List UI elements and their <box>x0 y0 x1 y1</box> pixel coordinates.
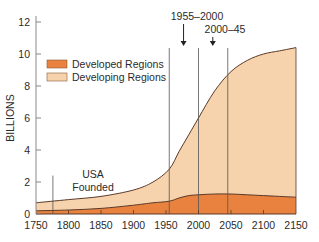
y-axis-label: BILLIONS <box>4 94 16 141</box>
y-tick-label-10: 10 <box>18 48 30 60</box>
annotation-1955-2000: 1955–2000 <box>171 10 224 22</box>
x-tick-label-1750: 1750 <box>24 219 48 231</box>
x-tick-label-1950: 1950 <box>154 219 178 231</box>
annotation-2000-45: 2000–45 <box>205 23 246 35</box>
population-chart: 0246810121750180018501900195020002050210… <box>0 0 319 242</box>
x-tick-label-2100: 2100 <box>252 219 276 231</box>
x-tick-label-1800: 1800 <box>57 219 81 231</box>
y-tick-label-12: 12 <box>18 16 30 28</box>
legend-swatch-developed <box>47 60 67 68</box>
y-tick-label-2: 2 <box>24 176 30 188</box>
arrow-head-1 <box>210 41 216 46</box>
legend-label-developing: Developing Regions <box>72 71 166 83</box>
y-tick-label-4: 4 <box>24 144 30 156</box>
arrow-head-0 <box>181 41 187 46</box>
x-tick-label-2050: 2050 <box>219 219 243 231</box>
legend-label-developed: Developed Regions <box>72 58 164 70</box>
y-tick-label-8: 8 <box>24 80 30 92</box>
x-tick-label-1850: 1850 <box>89 219 113 231</box>
legend: Developed Regions Developing Regions <box>47 58 166 83</box>
x-tick-label-1900: 1900 <box>122 219 146 231</box>
annotation-usa: USA <box>82 168 104 180</box>
x-tick-label-2000: 2000 <box>187 219 211 231</box>
annotation-founded: Founded <box>72 181 114 193</box>
legend-swatch-developing <box>47 73 67 81</box>
x-tick-label-2150: 2150 <box>284 219 308 231</box>
y-tick-label-6: 6 <box>24 112 30 124</box>
